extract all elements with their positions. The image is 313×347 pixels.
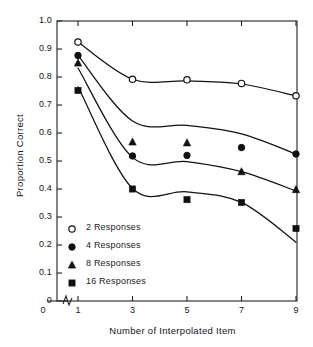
series-4 — [75, 87, 299, 242]
legend-label-4: 16 Responses — [86, 276, 146, 286]
legend-label-3: 8 Responses — [86, 258, 141, 268]
x-tick-label-0: 0 — [29, 305, 57, 315]
x-axis-label: Number of Interpolated Item — [40, 325, 305, 336]
legend-label-1: 2 Responses — [86, 222, 141, 232]
data-point-1-4 — [238, 80, 244, 86]
x-tick-label-3: 3 — [119, 305, 147, 315]
y-tick-label-0.4: 0.4 — [6, 183, 52, 193]
y-tick-label-0.9: 0.9 — [6, 43, 52, 53]
y-tick-label-0.7: 0.7 — [6, 99, 52, 109]
x-tick-label-5: 5 — [173, 305, 201, 315]
data-point-1-5 — [293, 93, 299, 99]
data-point-1-1 — [75, 39, 81, 45]
data-point-4-3 — [184, 197, 190, 203]
data-point-4-5 — [293, 225, 299, 231]
legend-item-3 — [68, 261, 75, 268]
x-tick-label-1: 1 — [64, 305, 92, 315]
y-tick-label-0: 0 — [6, 295, 52, 305]
chart-figure: Proportion Correct Number of Interpolate… — [0, 0, 313, 347]
y-tick-label-0.3: 0.3 — [6, 211, 52, 221]
legend-marker-filled-square — [69, 280, 75, 286]
series-line-4 — [78, 87, 296, 242]
y-tick-label-0.1: 0.1 — [6, 267, 52, 277]
data-point-2-5 — [293, 151, 299, 157]
data-point-3-1 — [74, 59, 81, 66]
data-point-3-2 — [129, 138, 136, 145]
y-tick-label-1.0: 1.0 — [6, 15, 52, 25]
data-point-4-1 — [75, 87, 81, 93]
series-line-1 — [78, 42, 296, 96]
y-tick-label-0.6: 0.6 — [6, 127, 52, 137]
data-point-2-1 — [75, 52, 81, 58]
legend-marker-open-circle — [69, 226, 75, 232]
x-tick-label-9: 9 — [282, 305, 310, 315]
x-tick-label-7: 7 — [228, 305, 256, 315]
data-point-3-5 — [292, 186, 299, 193]
data-point-4-4 — [238, 199, 244, 205]
legend-item-4 — [69, 280, 75, 286]
legend-marker-filled-circle — [69, 244, 75, 250]
data-point-2-3 — [184, 152, 190, 158]
y-tick-label-0.2: 0.2 — [6, 239, 52, 249]
series-1 — [75, 39, 299, 99]
legend-item-2 — [69, 244, 75, 250]
axis-break-marker — [63, 296, 72, 305]
data-point-2-4 — [238, 144, 244, 150]
data-point-3-3 — [183, 139, 190, 146]
y-tick-label-0.5: 0.5 — [6, 155, 52, 165]
legend-marker-filled-triangle — [68, 261, 75, 268]
data-point-1-3 — [184, 77, 190, 83]
data-point-1-2 — [129, 76, 135, 82]
data-point-4-2 — [129, 186, 135, 192]
series-line-3 — [78, 68, 296, 191]
legend-item-1 — [69, 226, 75, 232]
legend-label-2: 4 Responses — [86, 240, 141, 250]
y-tick-label-0.8: 0.8 — [6, 71, 52, 81]
